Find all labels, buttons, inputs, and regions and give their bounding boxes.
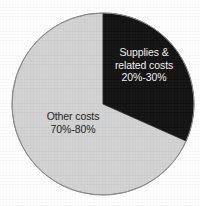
pie-chart-canvas — [0, 0, 200, 206]
pie-chart-figure: Supplies & related costs 20%-30% Other c… — [0, 0, 200, 206]
